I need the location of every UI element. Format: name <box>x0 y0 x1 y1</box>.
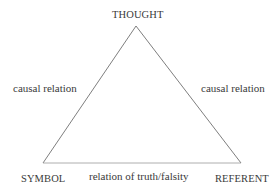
triangle-graphic <box>0 0 276 191</box>
node-referent: REFERENT <box>215 173 269 185</box>
edge-right <box>136 26 241 163</box>
edge-label-right: causal relation <box>201 82 265 94</box>
node-symbol: SYMBOL <box>21 173 65 185</box>
edge-label-bottom: relation of truth/falsity <box>89 170 189 182</box>
node-thought: THOUGHT <box>112 9 163 21</box>
edge-left <box>43 26 136 163</box>
edge-label-left: causal relation <box>13 82 77 94</box>
